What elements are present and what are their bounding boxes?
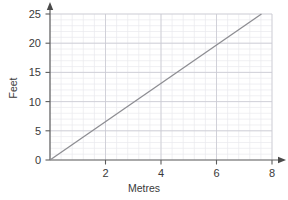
y-tick-label: 10 [29,96,41,108]
y-axis-title: Feet [7,77,19,98]
y-tick-label: 20 [29,37,41,49]
x-tick-label: 2 [102,167,108,179]
x-axis-arrow-icon [278,157,286,163]
x-tick-label: 4 [158,167,164,179]
axis-ticks [46,14,273,165]
tick-labels: 05101520252468 [29,8,275,179]
y-axis-arrow-icon [47,2,53,10]
x-axis-title: Metres [128,182,160,194]
y-tick-label: 25 [29,8,41,20]
chart-canvas: 05101520252468 Metres Feet [0,0,288,200]
data-series-line [50,14,261,160]
y-tick-label: 0 [35,154,41,166]
y-tick-label: 15 [29,66,41,78]
conversion-graph: 05101520252468 Metres Feet [0,0,288,200]
x-tick-label: 8 [269,167,275,179]
y-tick-label: 5 [35,125,41,137]
x-tick-label: 6 [213,167,219,179]
series-line [50,14,261,160]
